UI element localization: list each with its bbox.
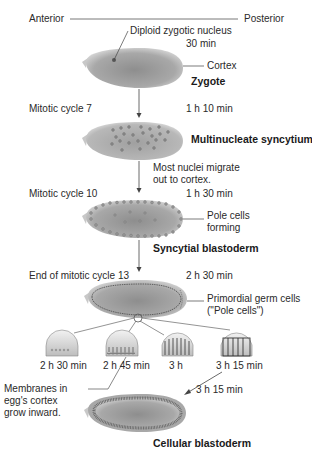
germ-cells-line1: Primordial germ cells [207, 293, 300, 305]
inset-3h [162, 333, 193, 356]
syncytial-blastoderm-embryo [82, 200, 183, 238]
inset-2h45 [106, 330, 138, 356]
cycle13-embryo [84, 280, 187, 318]
zygote-time: 30 min [186, 38, 216, 50]
cellular-blastoderm-title: Cellular blastoderm [153, 437, 251, 449]
cortex-label: Cortex [207, 60, 236, 72]
cycle13-time: 2 h 30 min [186, 270, 233, 282]
pole-cells-forming-line1: Pole cells [207, 210, 250, 222]
mitotic-cycle-10-label: Mitotic cycle 10 [29, 188, 97, 200]
inset-time-3h: 3 h [169, 360, 183, 372]
cellular-blastoderm-embryo [84, 394, 186, 432]
membranes-note-line3: grow inward. [4, 407, 61, 419]
posterior-label: Posterior [244, 13, 284, 25]
pole-cells-forming-line2: forming [207, 222, 240, 234]
diploid-nucleus-label: Diploid zygotic nucleus [130, 25, 232, 37]
zygote-embryo [82, 48, 183, 88]
migrate-note-line2: out to cortex. [153, 174, 211, 186]
end-cycle-13-label: End of mitotic cycle 13 [29, 270, 129, 282]
zygote-title: Zygote [191, 75, 225, 87]
anterior-label: Anterior [29, 13, 64, 25]
inset-connectors [74, 318, 230, 335]
syncytial-blastoderm-title: Syncytial blastoderm [153, 242, 259, 254]
migrate-note-line1: Most nuclei migrate [153, 162, 240, 174]
syncytial-time: 1 h 30 min [186, 188, 233, 200]
inset-time-3h15: 3 h 15 min [216, 360, 263, 372]
membranes-note-line2: egg's cortex [4, 395, 58, 407]
cellular-blastoderm-time: 3 h 15 min [196, 384, 243, 396]
inset-time-2h45: 2 h 45 min [103, 360, 150, 372]
inset-2h30 [46, 330, 78, 356]
mitotic-cycle-7-label: Mitotic cycle 7 [29, 103, 92, 115]
membranes-note-line1: Membranes in [4, 383, 67, 395]
germ-cells-line2: ("Pole cells") [207, 305, 264, 317]
syncytium-time: 1 h 10 min [186, 103, 233, 115]
inset-time-2h30: 2 h 30 min [40, 360, 87, 372]
syncytium-embryo [82, 122, 183, 160]
inset-3h15 [221, 333, 252, 356]
syncytium-title: Multinucleate syncytium [191, 133, 312, 145]
